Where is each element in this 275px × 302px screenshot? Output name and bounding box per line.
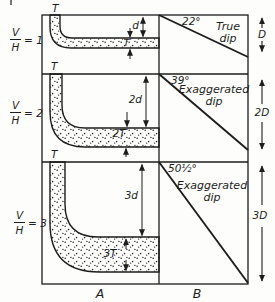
ratio-value: = 1: [24, 34, 43, 46]
vertical-exaggeration-diagram: V H = 1 V H = 2 V H = 3 T T T d 2d 3d T …: [0, 0, 275, 302]
fraction-bar: [10, 112, 21, 113]
dip-type-line2: dip: [177, 96, 251, 108]
angle-label-row1: 22°: [182, 16, 201, 27]
bed-top-label-row3: T: [51, 149, 57, 160]
right-depth-label-row1: D: [252, 29, 272, 40]
ratio-label-row1: V H = 1: [10, 26, 43, 53]
dip-type-label-row1: True dip: [203, 21, 253, 45]
angle-label-row3: 50½°: [168, 163, 197, 174]
dip-type-line2: dip: [203, 33, 253, 45]
depth-dim-label-row3: 3d: [120, 190, 138, 201]
fraction-bar: [14, 222, 25, 223]
dip-type-line2: dip: [175, 192, 249, 204]
thickness-label-row1: T: [120, 38, 133, 48]
depth-dim-label-row1: d: [126, 20, 139, 31]
right-depth-label-row2: 2D: [252, 107, 272, 118]
ratio-denominator: H: [12, 41, 20, 53]
bed-curve-row2: [50, 74, 159, 147]
bed-top-label-row2: T: [51, 61, 57, 72]
thickness-label-row3: 3T: [99, 248, 121, 259]
thickness-label-row2: 2T: [108, 128, 130, 139]
dip-type-label-row2: Exaggerated dip: [177, 84, 251, 108]
dip-type-label-row3: Exaggerated dip: [175, 180, 249, 204]
ratio-label-row3: V H = 3: [14, 209, 47, 236]
bed-top-label-row1: T: [52, 3, 58, 14]
column-label-b: B: [187, 288, 207, 301]
ratio-denominator: H: [12, 114, 20, 126]
ratio-fraction: V H: [10, 26, 21, 53]
ratio-fraction: V H: [10, 99, 21, 126]
ratio-value: = 2: [24, 107, 43, 119]
depth-dim-label-row2: 2d: [124, 94, 142, 105]
right-depth-label-row3: 3D: [250, 210, 270, 221]
column-label-a: A: [90, 288, 110, 301]
ratio-numerator: V: [16, 209, 23, 221]
fraction-bar: [10, 39, 21, 40]
ratio-value: = 3: [28, 217, 47, 229]
ratio-denominator: H: [16, 224, 24, 236]
ratio-numerator: V: [12, 26, 19, 38]
ratio-fraction: V H: [14, 209, 25, 236]
ratio-numerator: V: [12, 99, 19, 111]
ratio-label-row2: V H = 2: [10, 99, 43, 126]
